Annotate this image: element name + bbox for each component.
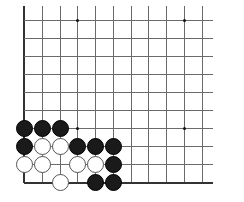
grid-line-vertical [148,6,149,183]
black-stone[interactable] [52,120,69,137]
white-stone[interactable] [69,156,86,173]
grid-line-horizontal [24,92,213,93]
black-stone[interactable] [16,138,33,155]
white-stone[interactable] [52,174,69,191]
grid-line-horizontal [24,74,213,75]
black-stone[interactable] [105,156,122,173]
black-stone[interactable] [34,120,51,137]
grid-line-horizontal [24,38,213,39]
white-stone[interactable] [34,156,51,173]
white-stone[interactable] [87,156,104,173]
white-stone[interactable] [34,138,51,155]
star-point [76,19,79,22]
grid-line-vertical [131,6,132,183]
black-stone[interactable] [69,138,86,155]
white-stone[interactable] [16,156,33,173]
grid-line-vertical [202,6,203,183]
star-point [183,19,186,22]
grid-line-vertical [60,6,61,183]
black-stone[interactable] [87,138,104,155]
white-stone[interactable] [52,138,69,155]
black-stone[interactable] [87,174,104,191]
star-point [183,127,186,130]
grid-line-vertical [166,6,167,183]
grid-line-horizontal [24,110,213,111]
black-stone[interactable] [105,174,122,191]
grid-line-vertical [184,6,185,183]
black-stone[interactable] [105,138,122,155]
star-point [76,127,79,130]
black-stone[interactable] [16,120,33,137]
go-board[interactable] [0,0,244,202]
grid-line-horizontal [24,56,213,57]
